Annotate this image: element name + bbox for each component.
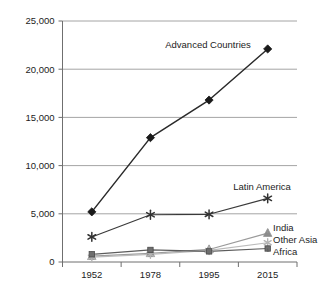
- chart-plot-area: 05,00010,00015,00020,00025,000 195219781…: [0, 0, 336, 300]
- y-axis-tick-label: 15,000: [25, 112, 54, 123]
- x-axis-tick-label: 1952: [81, 269, 102, 280]
- annotation-other-asia: Other Asia: [273, 234, 318, 245]
- annotation-india: India: [273, 222, 294, 233]
- annotation-advanced-countries: Advanced Countries: [165, 39, 251, 50]
- x-axis-tick-label: 1978: [140, 269, 161, 280]
- data-point-marker: [89, 252, 94, 257]
- y-axis-tick-label: 25,000: [25, 15, 54, 26]
- x-axis-tick-label: 1995: [198, 269, 219, 280]
- x-axis-tick-label: 2015: [257, 269, 278, 280]
- line-chart-figure: 05,00010,00015,00020,00025,000 195219781…: [0, 0, 336, 300]
- y-axis-tick-label: 0: [49, 256, 54, 267]
- figure-caption-clipped: [0, 293, 336, 300]
- annotation-africa: Africa: [273, 246, 298, 257]
- data-point-marker: [206, 249, 211, 254]
- y-axis-tick-label: 5,000: [31, 208, 55, 219]
- annotation-latin-america: Latin America: [233, 181, 291, 192]
- y-axis-tick-label: 20,000: [25, 64, 54, 75]
- data-point-marker: [148, 247, 153, 252]
- y-axis-tick-label: 10,000: [25, 160, 54, 171]
